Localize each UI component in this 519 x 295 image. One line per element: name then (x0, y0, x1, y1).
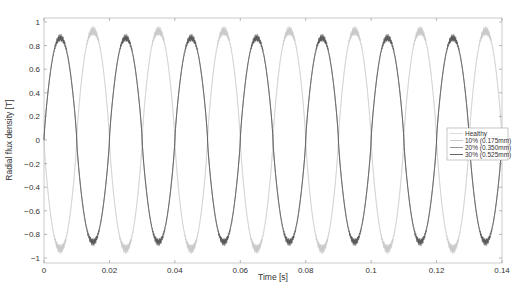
y-tick-label: −0.8 (24, 230, 40, 239)
y-tick-label: −0.2 (24, 160, 40, 169)
x-tick-label: 0.06 (232, 266, 248, 275)
x-tick-label: 0.02 (102, 266, 118, 275)
x-tick-label: 0.08 (298, 266, 314, 275)
legend-label: 30% (0.525mm) (465, 151, 511, 159)
y-tick-label: −1 (31, 254, 41, 263)
plot-area: 00.020.040.060.080.10.120.14 10.80.60.40… (24, 18, 510, 275)
x-tick-label: 0.12 (429, 266, 445, 275)
y-tick-label: 1 (36, 18, 41, 27)
y-tick-label: 0.8 (29, 42, 41, 51)
x-tick-label: 0.1 (366, 266, 378, 275)
y-tick-label: 0.6 (29, 65, 41, 74)
y-tick-label: 0 (36, 136, 41, 145)
legend: Healthy 10% (0.175mm) 20% (0.350mm) 30% … (447, 128, 511, 160)
x-tick-label: 0.04 (167, 266, 183, 275)
x-tick-label: 0 (42, 266, 47, 275)
y-tick-label: 0.4 (29, 89, 41, 98)
y-axis-label: Radial flux density [T] (4, 99, 14, 180)
x-axis-label: Time [s] (258, 272, 288, 282)
flux-density-chart: 00.020.040.060.080.10.120.14 10.80.60.40… (0, 0, 519, 295)
y-tick-label: −0.6 (24, 207, 40, 216)
y-tick-label: 0.2 (29, 112, 41, 121)
y-tick-label: −0.4 (24, 183, 40, 192)
x-tick-label: 0.14 (494, 266, 510, 275)
